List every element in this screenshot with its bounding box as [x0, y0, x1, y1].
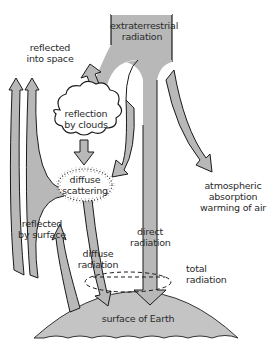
label-reflected-into-space: reflected into space: [24, 42, 76, 64]
direct-radiation-arrow: [126, 60, 172, 305]
label-line: diffuse: [76, 248, 120, 259]
label-reflected-by-surface: reflected by surface: [16, 218, 68, 240]
radiation-balance-diagram: extraterrestrial radiation reflected int…: [0, 0, 267, 345]
label-line: reflected: [24, 42, 76, 53]
label-line: absorption: [200, 191, 266, 202]
label-line: reflection: [62, 108, 110, 119]
label-line: radiation: [76, 259, 120, 270]
label-line: radiation: [110, 31, 174, 42]
label-total-radiation: total radiation: [186, 263, 230, 285]
label-reflection-by-clouds: reflection by clouds: [62, 108, 110, 130]
label-atmospheric-absorption: atmospheric absorption warming of air: [200, 180, 266, 213]
label-line: into space: [24, 53, 76, 64]
label-line: by clouds: [62, 119, 110, 130]
label-line: by surface: [16, 229, 68, 240]
clouds-to-scattering-arrow: [74, 140, 94, 165]
label-line: scattering: [60, 185, 110, 196]
label-diffuse-scattering: diffuse scattering: [60, 174, 110, 196]
label-line: total: [186, 263, 230, 274]
label-line: direct: [130, 226, 170, 237]
label-surface-of-earth: surface of Earth: [90, 313, 186, 324]
label-line: radiation: [186, 274, 230, 285]
label-line: diffuse: [60, 174, 110, 185]
label-line: extraterrestrial: [110, 20, 174, 31]
atmospheric-absorption-arrow: [166, 70, 212, 172]
label-direct-radiation: direct radiation: [130, 226, 170, 248]
label-line: reflected: [16, 218, 68, 229]
label-line: warming of air: [200, 202, 266, 213]
label-line: atmospheric: [200, 180, 266, 191]
label-line: surface of Earth: [90, 313, 186, 324]
label-line: radiation: [130, 237, 170, 248]
label-diffuse-radiation: diffuse radiation: [76, 248, 120, 270]
label-extraterrestrial-radiation: extraterrestrial radiation: [110, 20, 174, 42]
